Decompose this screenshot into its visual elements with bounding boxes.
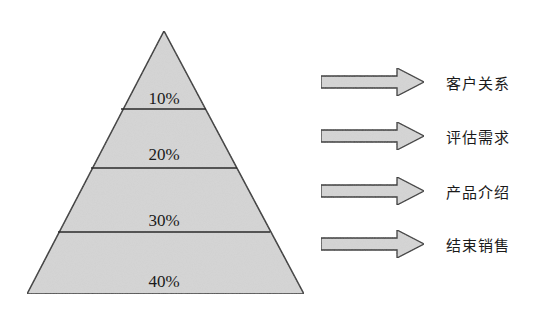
layer-percent-2: 20% xyxy=(148,145,179,164)
arrow-right-icon xyxy=(321,177,424,205)
sales-pyramid-diagram: 10% 20% 30% 40% xyxy=(0,0,539,314)
stage-label-assess-needs: 评估需求 xyxy=(446,126,510,147)
stage-label-product-introduction: 产品介绍 xyxy=(446,181,510,202)
arrow-right-icon xyxy=(321,68,424,96)
layer-percent-1: 10% xyxy=(148,89,179,108)
layer-percent-4: 40% xyxy=(148,272,179,291)
pyramid: 10% 20% 30% 40% xyxy=(27,31,304,294)
arrow-right-icon xyxy=(321,122,424,150)
stage-label-customer-relationship: 客户关系 xyxy=(446,72,510,93)
stage-label-close-sale: 结束销售 xyxy=(446,234,510,255)
layer-percent-3: 30% xyxy=(148,211,179,230)
arrows xyxy=(321,68,424,258)
arrow-right-icon xyxy=(321,230,424,258)
